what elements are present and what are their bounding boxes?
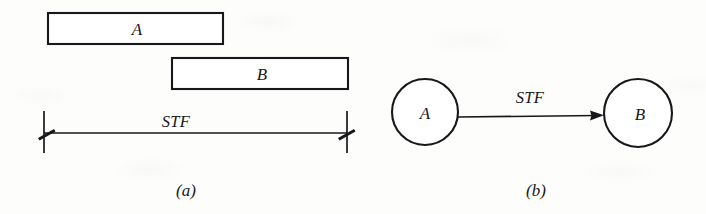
figure-canvas: A B STF (a) <box>0 0 706 214</box>
activity-bar-b: B <box>172 58 348 89</box>
stf-dimension-label: STF <box>162 112 191 131</box>
activity-bar-b-label: B <box>257 65 268 84</box>
figure-root: A B STF (a) <box>0 0 706 214</box>
stf-link-line <box>458 116 598 118</box>
stf-link-label: STF <box>516 88 545 107</box>
stf-link-arrow: STF <box>458 88 604 121</box>
node-a: A <box>392 79 458 145</box>
panel-b: A B STF (b) <box>392 79 672 200</box>
activity-bar-a-label: A <box>131 20 143 39</box>
dimension-arrowhead-left-icon <box>38 129 56 140</box>
panel-a-caption: (a) <box>176 181 196 200</box>
panel-a: A B STF (a) <box>38 13 356 200</box>
activity-bar-a: A <box>48 13 223 44</box>
stf-dimension-line: STF <box>38 111 356 153</box>
panel-b-caption: (b) <box>526 181 546 200</box>
node-a-label: A <box>419 104 431 123</box>
node-b-label: B <box>635 105 646 124</box>
stf-link-arrowhead-icon <box>590 110 604 120</box>
node-b: B <box>604 79 672 147</box>
